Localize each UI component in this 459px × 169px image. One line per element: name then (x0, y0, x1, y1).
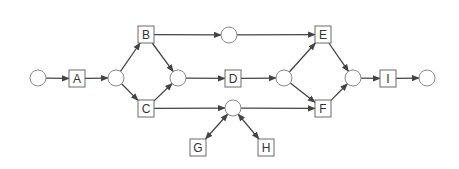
transition-G: G (190, 139, 206, 156)
transition-label: F (319, 102, 326, 116)
transition-label: H (262, 141, 271, 155)
transition-label: G (193, 141, 202, 155)
transition-label: B (142, 28, 150, 42)
transition-C: C (138, 100, 154, 117)
arc-F-to-p6 (331, 84, 347, 101)
transition-F: F (315, 100, 331, 117)
transition-label: E (319, 28, 327, 42)
transition-D: D (225, 70, 241, 87)
arc-p4-to-E (289, 43, 315, 72)
arc-C-to-p2 (154, 84, 172, 101)
place-p6 (345, 70, 361, 86)
place-p2 (170, 70, 186, 86)
arc-p1-to-B (121, 43, 141, 71)
transition-label: D (229, 72, 238, 86)
arc-E-to-p6 (329, 43, 349, 71)
transition-H: H (258, 139, 274, 156)
place-p1 (108, 70, 124, 86)
arc-p1-to-C (122, 84, 138, 101)
place-p5 (225, 100, 241, 116)
transition-I: I (380, 70, 396, 87)
transition-label: A (73, 72, 81, 86)
place-p3 (221, 27, 237, 43)
petri-net-diagram: ABCDEFGHI (0, 0, 459, 169)
arc-p4-to-F (290, 83, 315, 102)
arc-p5-to-H (238, 114, 259, 139)
transition-label: I (386, 72, 389, 86)
place-p_end (419, 70, 435, 86)
place-p4 (276, 70, 292, 86)
transition-B: B (138, 26, 154, 43)
place-p_start (30, 70, 46, 86)
transition-E: E (315, 26, 331, 43)
arc-p5-to-G (206, 114, 228, 139)
transition-label: C (142, 102, 151, 116)
transitions-layer: ABCDEFGHI (69, 26, 396, 156)
transition-A: A (69, 70, 85, 87)
arc-B-to-p2 (152, 43, 173, 72)
